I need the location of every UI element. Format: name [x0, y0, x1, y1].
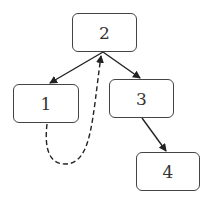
node-1: 1	[13, 84, 79, 123]
node-4: 4	[136, 152, 200, 191]
edge-2-to-1	[50, 52, 103, 83]
node-2: 2	[72, 13, 137, 52]
node-3: 3	[109, 79, 174, 118]
edge-2-to-3	[103, 52, 140, 78]
node-3-label: 3	[136, 89, 147, 109]
node-2-label: 2	[99, 23, 110, 43]
node-1-label: 1	[41, 94, 52, 114]
edge-3-to-4	[142, 118, 166, 151]
node-4-label: 4	[163, 162, 174, 182]
